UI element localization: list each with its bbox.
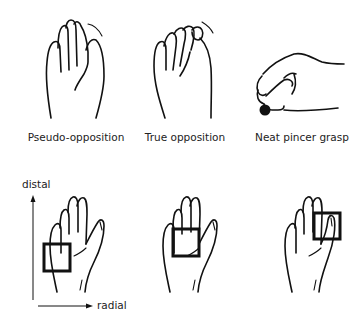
palm-hand-right-icon [285,197,335,292]
hand-grasp-diagram [0,0,364,324]
pseudo-opposition-label: Pseudo-opposition [28,131,125,143]
true-opposition-label: True opposition [145,131,225,143]
ulnar-proximal-highlight-box [44,244,70,271]
neat-pincer-grasp-hand-icon [257,54,344,116]
neat-pincer-grasp-label: Neat pincer grasp [255,131,349,143]
distal-axis-label: distal [22,178,51,190]
radial-arrowhead-icon [86,304,93,309]
true-opposition-hand-icon [154,22,213,118]
pseudo-opposition-hand-icon [46,20,104,118]
palm-hand-middle-icon [163,197,217,292]
center-palm-highlight-box [173,229,199,256]
distal-arrowhead-icon [31,195,36,202]
radial-axis-label: radial [97,299,127,311]
small-object-pellet-icon [260,105,271,116]
